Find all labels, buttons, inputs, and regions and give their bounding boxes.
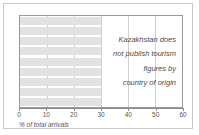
bar-4: [20, 58, 101, 66]
tick-label-10: 10: [43, 111, 50, 118]
tick-label-60: 60: [179, 111, 186, 118]
chart-figure-frame: Kazakhstan doesnot publish tourismfigure…: [3, 3, 193, 129]
bar-row: [20, 27, 182, 35]
x-axis-title: % of total arrivals: [19, 121, 69, 128]
x-axis-tick-labels: 0102030405060: [19, 111, 183, 121]
bar-row: [20, 37, 182, 45]
bar-1: [20, 27, 101, 35]
bar-7: [20, 88, 101, 96]
tick-label-40: 40: [125, 111, 132, 118]
bar-row: [20, 17, 182, 25]
bar-row: [20, 98, 182, 106]
plot-area: Kazakhstan doesnot publish tourismfigure…: [19, 15, 183, 108]
bar-5: [20, 68, 101, 76]
tick-label-30: 30: [97, 111, 104, 118]
bar-6: [20, 78, 101, 86]
bar-row: [20, 47, 182, 55]
tick-label-0: 0: [17, 111, 21, 118]
bar-0: [20, 17, 101, 25]
bar-2: [20, 37, 101, 45]
bar-row: [20, 58, 182, 66]
bar-row: [20, 78, 182, 86]
tick-label-50: 50: [152, 111, 159, 118]
bar-row: [20, 88, 182, 96]
tick-label-20: 20: [70, 111, 77, 118]
bar-series: [20, 16, 182, 107]
bar-row: [20, 68, 182, 76]
bar-3: [20, 47, 101, 55]
bar-8: [20, 98, 101, 106]
